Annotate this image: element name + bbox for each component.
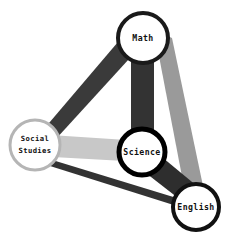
diagram-canvas: Social Studies Math Science English (0, 0, 225, 241)
node-social-studies-label-line1: Social (21, 134, 49, 143)
node-english-label: English (177, 202, 214, 212)
node-social-studies-label-line2: Studies (18, 146, 51, 155)
node-math[interactable]: Math (118, 13, 168, 63)
node-english[interactable]: English (173, 184, 219, 230)
node-link-graph: Social Studies Math Science English (0, 0, 225, 241)
node-science-label: Science (123, 147, 160, 157)
node-math-label: Math (132, 33, 153, 43)
node-social-studies[interactable]: Social Studies (10, 120, 60, 170)
node-science[interactable]: Science (119, 129, 165, 175)
